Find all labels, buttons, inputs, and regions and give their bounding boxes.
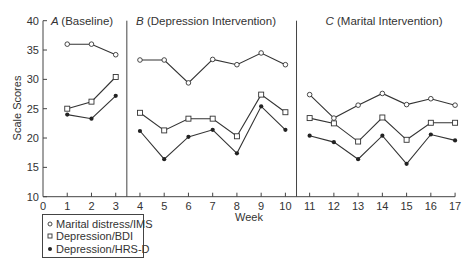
y-tick-label: 10 — [27, 191, 39, 203]
open-square-marker — [259, 92, 264, 97]
open-square-marker — [210, 116, 215, 121]
series-line — [310, 93, 456, 118]
open-circle-marker — [162, 58, 167, 63]
x-tick-label: 3 — [113, 200, 119, 212]
open-circle-marker — [113, 52, 118, 57]
open-circle-marker — [307, 92, 312, 97]
open-circle-icon — [48, 222, 52, 226]
series-line — [310, 135, 456, 164]
open-square-marker — [404, 137, 409, 142]
x-tick-label: 10 — [279, 200, 291, 212]
x-tick-label: 11 — [304, 200, 315, 212]
x-tick-label: 13 — [352, 200, 364, 212]
filled-circle-icon — [48, 247, 52, 251]
open-circle-marker — [283, 62, 288, 67]
filled-circle-marker — [453, 138, 457, 142]
phase-titles: A (Baseline)B (Depression Intervention)C… — [50, 15, 443, 27]
open-circle-marker — [235, 62, 240, 67]
filled-circle-marker — [332, 140, 336, 144]
open-square-marker — [113, 75, 118, 80]
filled-circle-marker — [138, 129, 142, 133]
series-0 — [65, 42, 457, 121]
open-square-marker — [234, 134, 239, 139]
filled-circle-marker — [356, 157, 360, 161]
x-axis-label: Week — [235, 211, 263, 223]
open-square-marker — [65, 106, 70, 111]
x-tick-label: 2 — [88, 200, 94, 212]
filled-circle-marker — [162, 157, 166, 161]
filled-circle-marker — [211, 128, 215, 132]
open-circle-marker — [380, 91, 385, 96]
filled-circle-marker — [89, 117, 93, 121]
filled-circle-marker — [186, 135, 190, 139]
open-circle-marker — [356, 103, 361, 108]
open-circle-marker — [210, 57, 215, 62]
open-square-marker — [137, 110, 142, 115]
x-tick-label: 7 — [210, 200, 216, 212]
filled-circle-marker — [429, 132, 433, 136]
legend-label: Marital distress/IMS — [56, 218, 153, 230]
open-square-marker — [380, 115, 385, 120]
legend: Marital distress/IMS Depression/BDI Depr… — [43, 215, 153, 258]
filled-circle-marker — [283, 128, 287, 132]
filled-circle-marker — [259, 104, 263, 108]
open-circle-marker — [65, 42, 70, 47]
y-tick-label: 25 — [27, 103, 39, 115]
legend-label: Depression/BDI — [56, 230, 133, 242]
y-tick-label: 20 — [27, 132, 39, 144]
open-circle-marker — [404, 102, 409, 107]
y-tick-label: 35 — [27, 44, 39, 56]
y-axis-label: Scale Scores — [11, 75, 23, 140]
x-tick-label: 0 — [40, 200, 46, 212]
phase-title-a: A (Baseline) — [50, 15, 113, 27]
filled-circle-marker — [235, 151, 239, 155]
open-square-marker — [89, 99, 94, 104]
open-square-marker — [162, 128, 167, 133]
open-circle-marker — [89, 42, 94, 47]
series-group — [65, 42, 458, 166]
x-tick-label: 15 — [400, 200, 412, 212]
x-tick-label: 16 — [425, 200, 437, 212]
x-tick-label: 1 — [64, 200, 70, 212]
x-tick-label: 8 — [234, 200, 240, 212]
x-tick-label: 17 — [449, 200, 461, 212]
open-circle-marker — [138, 58, 143, 63]
open-square-icon — [48, 234, 52, 238]
phase-title-b: B (Depression Intervention) — [136, 15, 276, 27]
open-square-marker — [186, 116, 191, 121]
legend-label: Depression/HRS-D — [56, 243, 150, 255]
y-tick-label: 15 — [27, 161, 39, 173]
open-circle-marker — [453, 103, 458, 108]
filled-circle-marker — [405, 162, 409, 166]
open-circle-marker — [429, 96, 434, 101]
series-2 — [65, 94, 457, 166]
open-circle-marker — [186, 81, 191, 86]
filled-circle-marker — [380, 134, 384, 138]
open-circle-marker — [259, 51, 264, 56]
legend-item-bdi: Depression/BDI — [48, 230, 133, 242]
open-square-marker — [331, 121, 336, 126]
open-circle-marker — [332, 116, 337, 121]
x-tick-label: 12 — [328, 200, 340, 212]
open-square-marker — [356, 139, 361, 144]
open-square-marker — [428, 120, 433, 125]
line-chart: 1015202530354001234567891011121314151617… — [0, 0, 473, 270]
open-square-marker — [307, 116, 312, 121]
phase-title-c: C (Marital Intervention) — [326, 15, 443, 27]
filled-circle-marker — [114, 94, 118, 98]
open-square-marker — [453, 120, 458, 125]
open-square-marker — [283, 110, 288, 115]
x-tick-label: 9 — [258, 200, 264, 212]
x-tick-label: 6 — [185, 200, 191, 212]
y-tick-label: 30 — [27, 73, 39, 85]
x-tick-label: 5 — [161, 200, 167, 212]
filled-circle-marker — [308, 134, 312, 138]
y-tick-label: 40 — [27, 15, 39, 27]
series-1 — [65, 75, 458, 145]
legend-item-hrsd: Depression/HRS-D — [48, 243, 150, 255]
filled-circle-marker — [65, 112, 69, 116]
x-tick-label: 14 — [376, 200, 388, 212]
legend-item-ims: Marital distress/IMS — [48, 218, 153, 230]
x-tick-label: 4 — [137, 200, 143, 212]
